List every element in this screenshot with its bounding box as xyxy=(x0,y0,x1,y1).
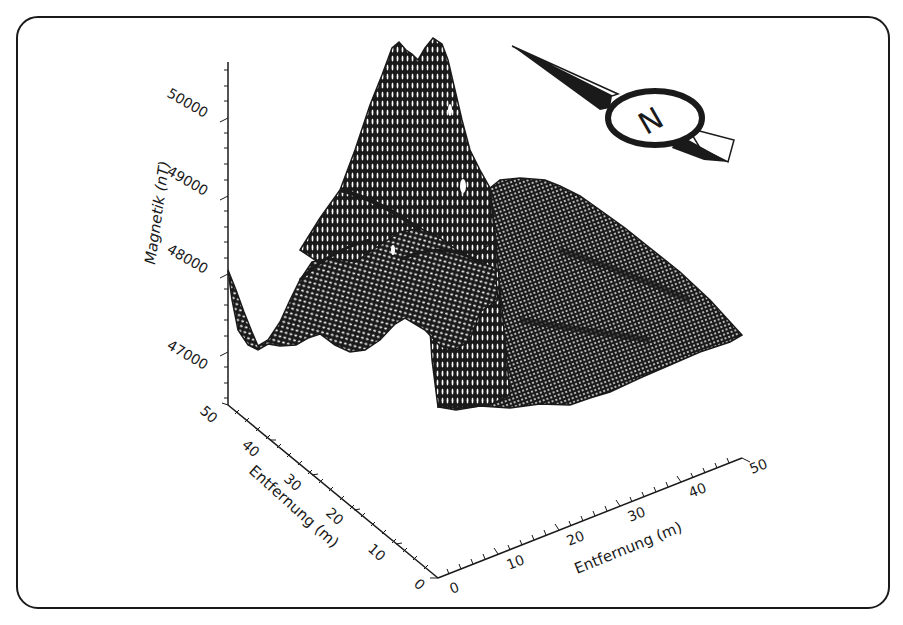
left-tick-0: 0 xyxy=(411,575,428,593)
right-tick-50: 50 xyxy=(747,455,770,477)
right-tick-20: 20 xyxy=(564,527,587,549)
right-tick-0: 0 xyxy=(447,579,461,597)
z-tick-47000: 47000 xyxy=(165,337,212,373)
surface-plot: 50000 49000 48000 47000 Magnetik (nT) 50 xyxy=(0,0,903,625)
right-tick-40: 40 xyxy=(686,479,709,501)
right-axis-title: Entfernung (m) xyxy=(572,518,685,578)
z-axis: 50000 49000 48000 47000 Magnetik (nT) xyxy=(141,62,228,405)
right-floor-axis: 0 10 20 30 40 50 Entfernung (m) xyxy=(438,455,770,597)
right-tick-30: 30 xyxy=(625,503,648,525)
right-tick-10: 10 xyxy=(504,551,527,573)
north-arrow-icon: N xyxy=(512,46,734,162)
z-tick-50000: 50000 xyxy=(165,85,212,121)
z-tick-48000: 48000 xyxy=(165,241,212,277)
left-floor-axis: 50 40 30 20 10 0 Entfernung (m) xyxy=(197,402,438,593)
left-tick-10: 10 xyxy=(365,540,389,564)
left-tick-40: 40 xyxy=(239,436,263,460)
left-tick-50: 50 xyxy=(197,402,221,426)
